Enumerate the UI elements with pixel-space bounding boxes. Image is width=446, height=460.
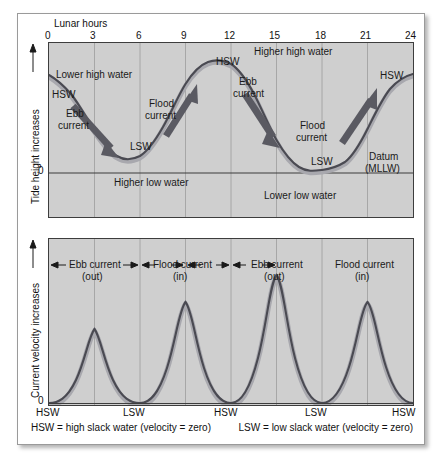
- tide-current-figure: Lower high water HSW Ebb current LSW Flo…: [17, 13, 425, 445]
- label-flood-current-1-l2: current: [145, 110, 176, 121]
- label-ebb-current-1-l2: current: [58, 120, 89, 131]
- label-lower-low-water: Lower low water: [264, 190, 336, 201]
- tide-zero-label: 0: [38, 165, 44, 176]
- tide-axis-arrow: [30, 44, 36, 72]
- phase-label-1-title: Ebb current: [69, 259, 121, 270]
- bottom-tick-hsw-4: HSW: [392, 407, 415, 418]
- phase-label-4-title: Flood current: [335, 259, 394, 270]
- label-flood-current-1-l1: Flood: [149, 98, 174, 109]
- label-higher-low-water: Higher low water: [114, 177, 188, 188]
- x-axis-title: Lunar hours: [54, 18, 107, 29]
- x-tick-6: 6: [136, 30, 142, 41]
- current-zero-label: 0: [38, 395, 44, 406]
- x-tick-18: 18: [315, 30, 326, 41]
- label-flood-current-2-l1: Flood: [300, 120, 325, 131]
- y-axis-title-tide: Tide height increases: [30, 109, 41, 204]
- flood-current-arrow-2: [342, 88, 377, 143]
- label-datum-l2: (MLLW): [365, 163, 400, 174]
- current-velocity-plot: Ebb current (out) Flood current (in) Ebb…: [48, 238, 414, 406]
- label-lsw-right: LSW: [311, 156, 333, 167]
- label-lsw-left: LSW: [130, 141, 152, 152]
- bottom-tick-hsw-0: HSW: [36, 407, 59, 418]
- label-hsw-left: HSW: [52, 89, 75, 100]
- phase-label-1-sub: (out): [82, 271, 103, 282]
- label-lower-high-water: Lower high water: [56, 69, 132, 80]
- x-tick-9: 9: [181, 30, 187, 41]
- legend-lsw: LSW = low slack water (velocity = zero): [239, 422, 414, 433]
- tide-height-plot: Lower high water HSW Ebb current LSW Flo…: [48, 42, 414, 218]
- current-axis-arrow: [30, 240, 36, 268]
- y-axis-title-current: Current velocity increases: [30, 283, 41, 398]
- label-ebb-current-2-l1: Ebb: [239, 76, 257, 87]
- x-tick-21: 21: [360, 30, 371, 41]
- phase-label-2-sub: (in): [173, 271, 187, 282]
- label-higher-high-water: Higher high water: [254, 46, 332, 57]
- phase-label-3-sub: (out): [264, 271, 285, 282]
- bottom-tick-lsw-3: LSW: [305, 407, 327, 418]
- bottom-tick-lsw-1: LSW: [123, 407, 145, 418]
- x-tick-0: 0: [45, 30, 51, 41]
- x-tick-24: 24: [405, 30, 416, 41]
- label-ebb-current-2-l2: current: [233, 88, 264, 99]
- label-datum-l1: Datum: [369, 151, 398, 162]
- x-tick-15: 15: [269, 30, 280, 41]
- label-hsw-right: HSW: [380, 70, 403, 81]
- label-hsw-mid: HSW: [216, 56, 239, 67]
- phase-label-2-title: Flood current: [153, 259, 212, 270]
- x-tick-12: 12: [224, 30, 235, 41]
- label-ebb-current-1-l1: Ebb: [66, 108, 84, 119]
- label-flood-current-2-l2: current: [296, 132, 327, 143]
- bottom-tick-hsw-2: HSW: [214, 407, 237, 418]
- legend-hsw: HSW = high slack water (velocity = zero): [31, 422, 211, 433]
- phase-label-3-title: Ebb current: [251, 259, 303, 270]
- x-tick-3: 3: [90, 30, 96, 41]
- phase-label-4-sub: (in): [355, 271, 369, 282]
- legend: HSW = high slack water (velocity = zero)…: [18, 422, 426, 433]
